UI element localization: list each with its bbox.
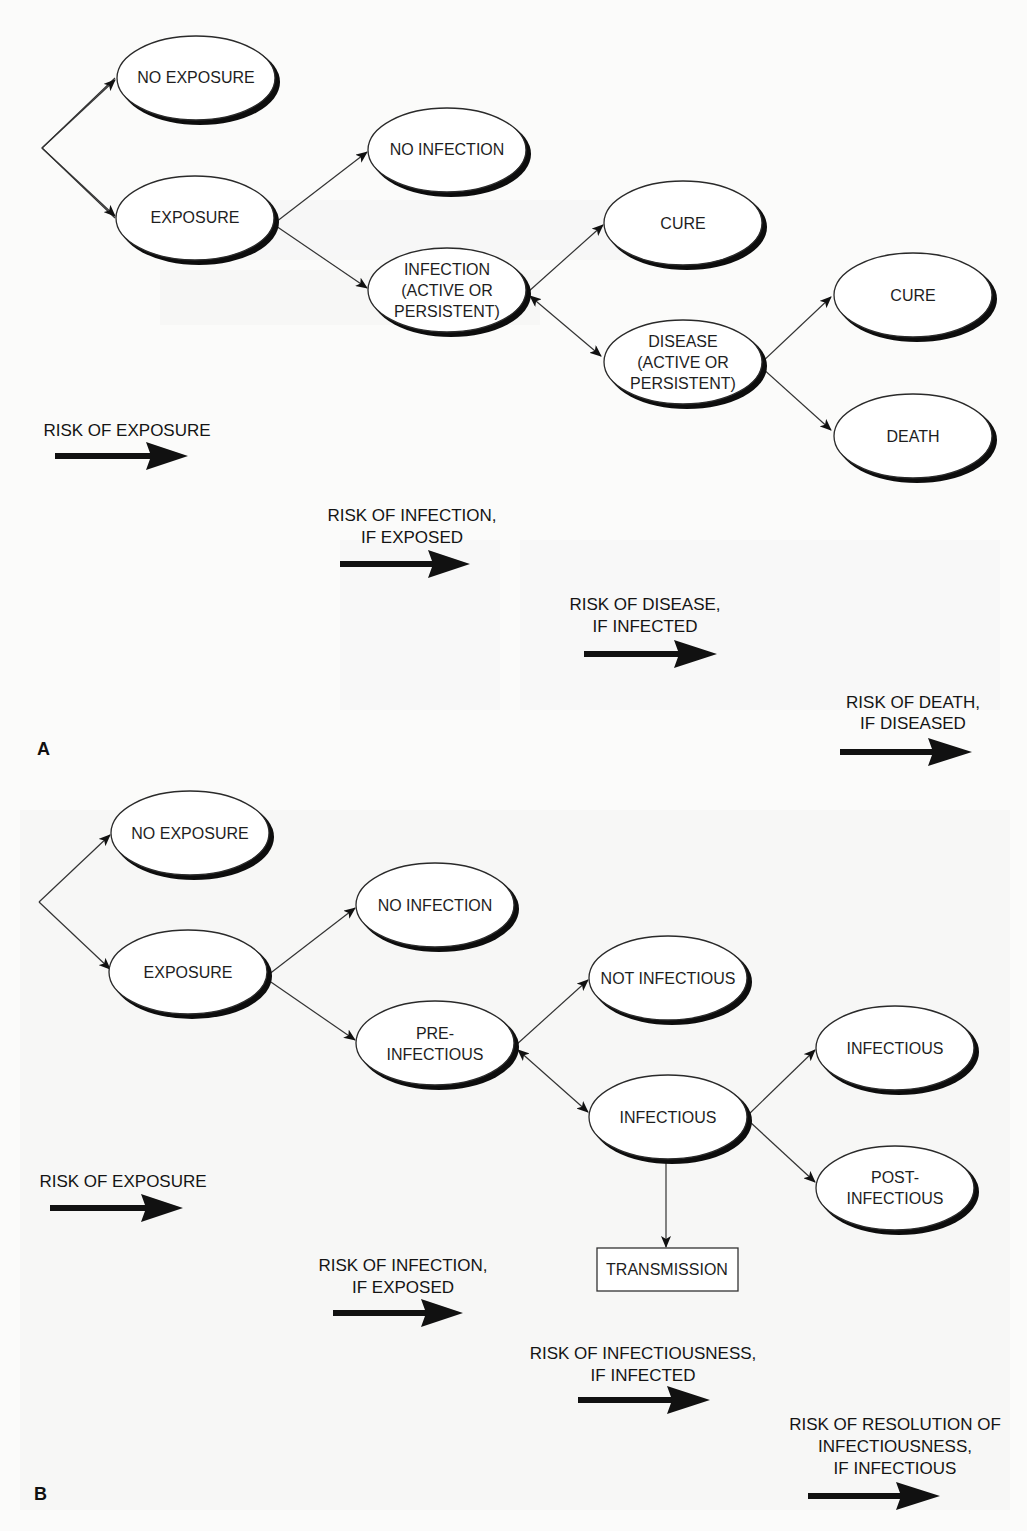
svg-text:RISK OF EXPOSURE: RISK OF EXPOSURE <box>39 1172 206 1191</box>
svg-text:(ACTIVE OR: (ACTIVE OR <box>637 354 729 371</box>
svg-text:PERSISTENT): PERSISTENT) <box>630 375 736 392</box>
svg-text:(ACTIVE OR: (ACTIVE OR <box>401 282 493 299</box>
node-exposure-a: EXPOSURE <box>116 176 279 265</box>
node-no-exposure-a: NO EXPOSURE <box>117 36 280 125</box>
svg-text:NO EXPOSURE: NO EXPOSURE <box>131 825 248 842</box>
svg-text:INFECTION: INFECTION <box>404 261 490 278</box>
svg-text:IF INFECTED: IF INFECTED <box>591 1366 696 1385</box>
node-no-infection-a: NO INFECTION <box>368 108 531 197</box>
svg-text:CURE: CURE <box>890 287 935 304</box>
node-death: DEATH <box>834 394 997 483</box>
svg-text:IF DISEASED: IF DISEASED <box>860 714 966 733</box>
svg-text:INFECTIOUS: INFECTIOUS <box>847 1040 944 1057</box>
svg-text:IF INFECTED: IF INFECTED <box>593 617 698 636</box>
epidemiology-flow-diagram: NO EXPOSURE EXPOSURE NO INFECTION INFECT… <box>0 0 1027 1531</box>
svg-text:INFECTIOUS: INFECTIOUS <box>620 1109 717 1126</box>
svg-text:INFECTIOUS: INFECTIOUS <box>387 1046 484 1063</box>
svg-text:RISK OF INFECTION,: RISK OF INFECTION, <box>327 506 496 525</box>
svg-text:RISK OF INFECTION,: RISK OF INFECTION, <box>318 1256 487 1275</box>
arrow-to-cure-2 <box>762 297 831 362</box>
svg-text:INFECTIOUS: INFECTIOUS <box>847 1190 944 1207</box>
svg-text:CURE: CURE <box>660 215 705 232</box>
svg-text:NO INFECTION: NO INFECTION <box>378 897 493 914</box>
svg-text:IF EXPOSED: IF EXPOSED <box>352 1278 454 1297</box>
svg-text:INFECTIOUSNESS,: INFECTIOUSNESS, <box>818 1437 972 1456</box>
svg-text:DISEASE: DISEASE <box>648 333 717 350</box>
svg-text:TRANSMISSION: TRANSMISSION <box>606 1261 728 1278</box>
arrow-infection-disease <box>530 296 601 356</box>
panel-letter-b: B <box>34 1484 47 1504</box>
branch-exposure <box>42 78 115 218</box>
svg-text:POST-: POST- <box>871 1169 919 1186</box>
node-cure-2: CURE <box>834 253 997 342</box>
arrow-to-exposure-a <box>42 148 115 216</box>
risk-of-exposure-a: RISK OF EXPOSURE <box>43 421 210 470</box>
arrow-to-death <box>762 368 831 430</box>
svg-text:NO INFECTION: NO INFECTION <box>390 141 505 158</box>
svg-text:NO EXPOSURE: NO EXPOSURE <box>137 69 254 86</box>
svg-text:EXPOSURE: EXPOSURE <box>151 209 240 226</box>
svg-text:PRE-: PRE- <box>416 1025 454 1042</box>
block-arrow-icon <box>55 442 188 470</box>
svg-text:RISK OF INFECTIOUSNESS,: RISK OF INFECTIOUSNESS, <box>530 1344 757 1363</box>
panel-letter-a: A <box>37 739 50 759</box>
svg-text:RISK OF DEATH,: RISK OF DEATH, <box>846 693 980 712</box>
svg-text:DEATH: DEATH <box>886 428 939 445</box>
svg-text:PERSISTENT): PERSISTENT) <box>394 303 500 320</box>
block-arrow-icon <box>840 738 972 766</box>
arrow-to-no-exposure-a <box>42 80 115 148</box>
svg-text:RISK OF DISEASE,: RISK OF DISEASE, <box>569 595 720 614</box>
svg-text:EXPOSURE: EXPOSURE <box>144 964 233 981</box>
svg-text:NOT INFECTIOUS: NOT INFECTIOUS <box>601 970 736 987</box>
node-disease: DISEASE (ACTIVE OR PERSISTENT) <box>604 320 767 409</box>
risk-of-death-a: RISK OF DEATH, IF DISEASED <box>840 693 980 766</box>
svg-text:RISK OF EXPOSURE: RISK OF EXPOSURE <box>43 421 210 440</box>
svg-text:IF INFECTIOUS: IF INFECTIOUS <box>834 1459 957 1478</box>
svg-text:IF EXPOSED: IF EXPOSED <box>361 528 463 547</box>
svg-text:RISK OF RESOLUTION OF: RISK OF RESOLUTION OF <box>789 1415 1001 1434</box>
node-transmission: TRANSMISSION <box>597 1248 738 1291</box>
